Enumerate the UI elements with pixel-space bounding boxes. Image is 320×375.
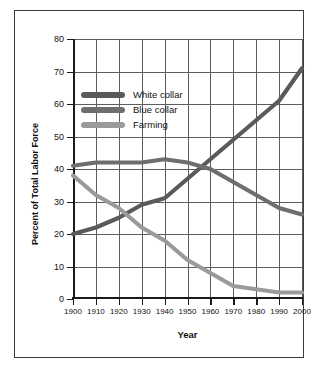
legend-swatch-blue-collar [81,107,125,113]
legend-item-white-collar: White collar [81,87,183,102]
x-tick [142,299,143,305]
legend-label-farming: Farming [133,119,168,130]
x-tick-label: 1930 [133,307,151,316]
y-axis-title: Percent of Total Labor Force [30,123,40,245]
x-tick [119,299,120,305]
x-tick-label: 1960 [201,307,219,316]
x-tick-label: 1940 [156,307,174,316]
legend-item-farming: Farming [81,117,183,132]
y-tick-label: 80 [54,34,64,44]
x-tick [188,299,189,305]
x-tick-label: 1920 [110,307,128,316]
x-tick [302,299,303,305]
y-tick-label: 60 [54,99,64,109]
legend-label-blue-collar: Blue collar [133,104,177,115]
chart-frame: Percent of Total Labor Force 01020304050… [14,10,304,358]
legend-label-white-collar: White collar [133,89,183,100]
x-tick [233,299,234,305]
y-tick-label: 20 [54,229,64,239]
legend-swatch-farming [81,122,125,128]
x-tick-label: 1980 [247,307,265,316]
x-tick [73,299,74,305]
y-tick-label: 0 [59,294,64,304]
x-tick [165,299,166,305]
series-line-farming [73,176,302,293]
x-tick-label: 1970 [224,307,242,316]
y-tick-label: 40 [54,164,64,174]
x-tick [96,299,97,305]
y-tick-label: 70 [54,67,64,77]
legend-swatch-white-collar [81,92,125,98]
y-tick-label: 30 [54,197,64,207]
gridline-vertical [302,39,303,299]
x-tick-label: 1950 [179,307,197,316]
x-tick [210,299,211,305]
y-tick-label: 10 [54,262,64,272]
x-tick-label: 2000 [293,307,311,316]
x-tick [256,299,257,305]
plot-area: 0102030405060708019001910192019301940195… [73,39,302,299]
legend-item-blue-collar: Blue collar [81,102,183,117]
chart-legend: White collar Blue collar Farming [81,87,183,132]
x-tick-label: 1990 [270,307,288,316]
data-series-layer [73,39,302,299]
x-tick [279,299,280,305]
x-axis-title: Year [73,329,302,340]
series-line-blue-collar [73,159,302,214]
x-tick-label: 1910 [87,307,105,316]
x-tick-label: 1900 [64,307,82,316]
y-tick-label: 50 [54,132,64,142]
